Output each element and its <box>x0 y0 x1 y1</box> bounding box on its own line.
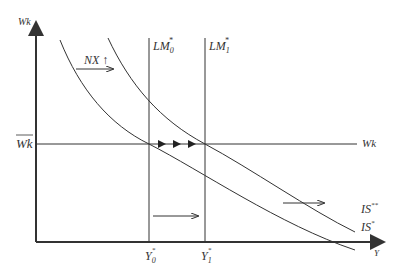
adjustment-arrow-2 <box>173 140 181 148</box>
y-axis-label: Wk <box>18 16 31 27</box>
y0-label: Y0* <box>145 246 156 265</box>
is2-label: IS** <box>360 201 379 216</box>
wk-line-label: Wk <box>362 137 377 149</box>
adjustment-arrow-3 <box>188 140 196 148</box>
wk-bar-label: Wk <box>16 136 33 151</box>
is-label: IS* <box>360 219 375 234</box>
y1-label: Y1* <box>201 246 212 265</box>
nx-label: NX ↑ <box>83 53 108 67</box>
lm0-label: LM0* <box>152 36 174 55</box>
is-lm-diagram: Wk Y Wk Wk NX ↑ LM0* LM1* IS** IS* Y0* Y… <box>0 0 396 274</box>
x-axis-label: Y <box>374 248 380 258</box>
lm1-label: LM1* <box>208 36 230 55</box>
adjustment-arrow-1 <box>158 140 166 148</box>
